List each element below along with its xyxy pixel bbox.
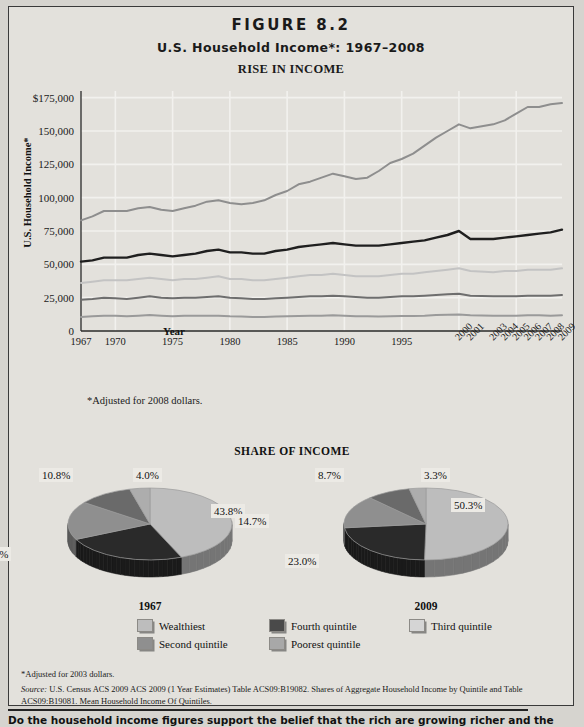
- line-chart-title: RISE IN INCOME: [9, 62, 573, 77]
- pie-slice-side: [420, 560, 425, 577]
- x-axis-label: Year: [9, 325, 339, 337]
- pie-slice-side: [121, 558, 126, 576]
- pie-slice-side: [76, 539, 78, 558]
- legend-label-wealthiest: Wealthiest: [159, 620, 205, 632]
- figure-subtitle: U.S. Household Income*: 1967–2008: [9, 40, 573, 55]
- legend-row-2: Second quintile Poorest quintile: [137, 637, 537, 650]
- pie-slice-side: [354, 541, 356, 560]
- bottom-question: Do the household income figures support …: [8, 714, 576, 727]
- pie-slice-side: [424, 560, 434, 577]
- source-prefix: Source:: [21, 684, 47, 694]
- pie-slice-side: [367, 549, 370, 567]
- pie-slice-side: [83, 545, 86, 564]
- pie-slice-side: [78, 541, 80, 560]
- pie-slice-side: [125, 558, 130, 576]
- y-axis-label: U.S. Household Income*: [22, 113, 33, 273]
- x-tick-1995: 1995: [391, 336, 412, 347]
- pie-slice-side: [385, 555, 389, 573]
- pie-label-second-quintile: 24.2%: [0, 547, 11, 561]
- pie-slice-side: [356, 543, 358, 562]
- pie-slice-side: [361, 546, 364, 565]
- x-tick-1990: 1990: [334, 336, 355, 347]
- pie-slice-side: [415, 560, 420, 577]
- legend-item-second-quintile: Second quintile: [137, 637, 269, 650]
- legend-item-poorest-quintile: Poorest quintile: [269, 637, 360, 650]
- legend-swatch-third-quintile: [409, 619, 425, 632]
- pie-slice-side: [158, 560, 163, 577]
- pie-slice-side: [163, 559, 168, 576]
- line-chart: U.S. Household Income* 025,00050,00075,0…: [9, 79, 575, 349]
- legend-label-poorest-quintile: Poorest quintile: [291, 638, 360, 650]
- figure-number: FIGURE 8.2: [9, 16, 573, 34]
- pie-slice-side: [149, 560, 154, 577]
- pie-slice-side: [108, 555, 112, 573]
- source-line: Source: U.S. Census ACS 2009 ACS 2009 (1…: [21, 683, 569, 708]
- x-tick-1980: 1980: [219, 336, 240, 347]
- figure-page: FIGURE 8.2 U.S. Household Income*: 1967–…: [0, 0, 584, 727]
- pie-label-third-quintile: 14.7%: [235, 514, 269, 528]
- page-rule: [8, 709, 528, 711]
- pie-slice-side: [197, 551, 204, 570]
- pie-1967-year: 1967: [15, 600, 285, 612]
- pie-1967-svg: [15, 462, 285, 602]
- legend-label-third-quintile: Third quintile: [431, 620, 492, 632]
- pie-slice-side: [352, 539, 354, 558]
- legend-row-1: Wealthiest Fourth quintile Third quintil…: [137, 619, 537, 632]
- pie-slice-side: [364, 548, 367, 566]
- pie-slice-side: [472, 551, 480, 571]
- x-tick-1967: 1967: [71, 336, 92, 347]
- pie-label-fourth-quintile: 10.8%: [39, 468, 73, 482]
- y-tick-1: 25,000: [44, 292, 75, 304]
- pie-slice-side: [86, 547, 89, 566]
- pie-slice-side: [104, 554, 108, 572]
- pie-slice-side: [411, 559, 416, 576]
- pie-slice-side: [153, 560, 158, 577]
- pie-slice-side: [116, 557, 120, 575]
- pie-label-poorest-quintile: 3.3%: [421, 468, 450, 482]
- share-of-income-title: SHARE OF INCOME: [9, 445, 575, 457]
- y-tick-5: 125,000: [38, 158, 74, 170]
- y-tick-4: 100,000: [38, 192, 74, 204]
- figure-box: FIGURE 8.2 U.S. Household Income*: 1967–…: [8, 6, 574, 706]
- legend-item-third-quintile: Third quintile: [409, 619, 492, 632]
- pie-slice-side: [393, 557, 397, 575]
- pie-slice-side: [130, 559, 135, 576]
- footnote: *Adjusted for 2003 dollars.: [21, 669, 569, 679]
- pie-label-second-quintile: 23.0%: [285, 554, 319, 568]
- y-tick-2: 50,000: [44, 258, 75, 270]
- pie-slice-side: [359, 545, 362, 564]
- x-tick-1975: 1975: [162, 336, 183, 347]
- source-text: U.S. Census ACS 2009 ACS 2009 (1 Year Es…: [21, 684, 523, 706]
- pie-slice-side: [402, 558, 406, 576]
- y-tick-7: $175,000: [33, 92, 75, 104]
- pie-slice-side: [444, 558, 454, 576]
- legend-swatch-poorest-quintile: [269, 637, 285, 650]
- pie-slice-side: [398, 558, 402, 576]
- pie-slice-side: [389, 556, 393, 574]
- pie-slice-side: [454, 556, 463, 575]
- pie-chart-1967: 1967 43.8%24.2%17.3%10.8%4.0%: [15, 462, 285, 622]
- pie-slice-side: [374, 552, 378, 570]
- pie-slice-side: [181, 556, 189, 575]
- pie-slice-side: [463, 554, 472, 573]
- pie-slice-side: [93, 550, 97, 568]
- legend-swatch-second-quintile: [137, 637, 153, 650]
- y-tick-6: 150,000: [38, 125, 74, 137]
- legend-label-fourth-quintile: Fourth quintile: [291, 620, 357, 632]
- legend-swatch-wealthiest: [137, 619, 153, 632]
- pie-slice-side: [381, 554, 385, 572]
- pie-2009-svg: [291, 462, 561, 602]
- pie-slice-side: [134, 559, 139, 576]
- pie-slice-side: [139, 560, 144, 577]
- legend-item-fourth-quintile: Fourth quintile: [269, 619, 409, 632]
- legend-swatch-fourth-quintile: [269, 619, 285, 632]
- x-tick-1985: 1985: [277, 336, 298, 347]
- pie-slice-side: [89, 548, 92, 567]
- pie-slice-side: [203, 549, 209, 569]
- pie-label-fourth-quintile: 8.7%: [315, 468, 344, 482]
- x-tick-1970: 1970: [105, 336, 126, 347]
- pie-slice-side: [100, 552, 104, 570]
- y-tick-3: 75,000: [44, 225, 75, 237]
- legend-label-second-quintile: Second quintile: [159, 638, 228, 650]
- pie-slice-side: [371, 551, 374, 569]
